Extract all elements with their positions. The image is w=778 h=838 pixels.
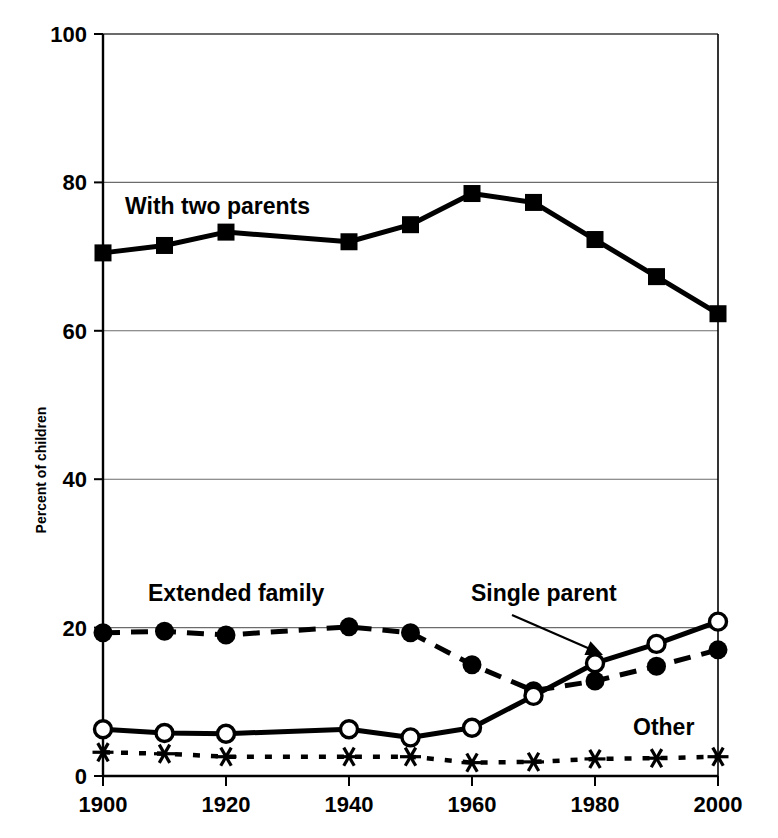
- y-tick-label: 0: [75, 764, 87, 789]
- data-point: [525, 194, 542, 211]
- marker-filled-square: [95, 244, 112, 261]
- marker-open-circle: [710, 613, 727, 630]
- marker-filled-square: [525, 194, 542, 211]
- x-tick-label: 2000: [694, 792, 743, 817]
- series-annotation-label: With two parents: [125, 193, 310, 219]
- data-point: [648, 268, 665, 285]
- data-point: [586, 672, 605, 691]
- marker-filled-square: [156, 237, 173, 254]
- marker-filled-circle: [647, 657, 666, 676]
- marker-filled-circle: [94, 623, 113, 642]
- marker-open-circle: [156, 724, 173, 741]
- marker-open-circle: [587, 655, 604, 672]
- data-point: [341, 233, 358, 250]
- data-point: [525, 687, 542, 704]
- data-point: [217, 626, 236, 645]
- y-tick-label: 80: [63, 170, 87, 195]
- series-annotation-label: Single parent: [471, 580, 617, 606]
- data-point: [156, 724, 173, 741]
- data-point: [402, 216, 419, 233]
- data-point: [340, 617, 359, 636]
- data-point: [587, 655, 604, 672]
- marker-filled-square: [710, 305, 727, 322]
- data-point: [94, 623, 113, 642]
- marker-filled-square: [218, 224, 235, 241]
- y-tick-label: 60: [63, 319, 87, 344]
- marker-open-circle: [341, 721, 358, 738]
- data-point: [95, 721, 112, 738]
- data-point: [218, 725, 235, 742]
- x-tick-label: 1940: [325, 792, 374, 817]
- marker-filled-circle: [401, 623, 420, 642]
- marker-filled-square: [464, 185, 481, 202]
- x-tick-label: 1980: [571, 792, 620, 817]
- line-chart: 020406080100 190019201940196019802000 Wi…: [0, 0, 778, 838]
- marker-filled-circle: [217, 626, 236, 645]
- data-point: [647, 657, 666, 676]
- x-tick-label: 1900: [79, 792, 128, 817]
- data-point: [587, 231, 604, 248]
- x-tick-label: 1920: [202, 792, 251, 817]
- marker-filled-square: [587, 231, 604, 248]
- marker-open-circle: [464, 719, 481, 736]
- marker-open-circle: [525, 687, 542, 704]
- series-annotation-label: Other: [633, 714, 694, 740]
- data-point: [463, 655, 482, 674]
- marker-filled-circle: [155, 622, 174, 641]
- marker-filled-circle: [340, 617, 359, 636]
- data-point: [709, 640, 728, 659]
- marker-filled-circle: [709, 640, 728, 659]
- marker-filled-square: [341, 233, 358, 250]
- y-axis-title: Percent of children: [33, 407, 49, 534]
- data-point: [155, 622, 174, 641]
- y-tick-label: 20: [63, 616, 87, 641]
- marker-open-circle: [648, 635, 665, 652]
- data-point: [464, 185, 481, 202]
- marker-filled-square: [402, 216, 419, 233]
- data-point: [95, 244, 112, 261]
- data-point: [648, 635, 665, 652]
- marker-open-circle: [218, 725, 235, 742]
- marker-filled-circle: [463, 655, 482, 674]
- data-point: [710, 305, 727, 322]
- data-point: [401, 623, 420, 642]
- data-point: [464, 719, 481, 736]
- series-annotation-label: Extended family: [148, 580, 325, 606]
- data-point: [218, 224, 235, 241]
- marker-open-circle: [402, 729, 419, 746]
- x-tick-label: 1960: [448, 792, 497, 817]
- chart-background: [0, 0, 778, 838]
- chart-container: 020406080100 190019201940196019802000 Wi…: [0, 0, 778, 838]
- y-tick-label: 100: [50, 22, 87, 47]
- data-point: [402, 729, 419, 746]
- data-point: [341, 721, 358, 738]
- y-tick-label: 40: [63, 467, 87, 492]
- data-point: [156, 237, 173, 254]
- marker-open-circle: [95, 721, 112, 738]
- marker-filled-circle: [586, 672, 605, 691]
- marker-filled-square: [648, 268, 665, 285]
- data-point: [710, 613, 727, 630]
